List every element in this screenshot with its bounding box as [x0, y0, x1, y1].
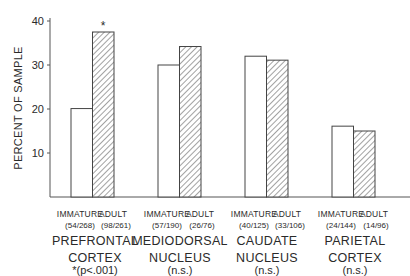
immature-bar — [71, 109, 93, 197]
significance-star: * — [101, 19, 106, 33]
group-name-line1: MEDIODORSAL — [130, 232, 230, 250]
immature-bar — [332, 126, 354, 197]
adult-count: (33/106) — [267, 221, 313, 230]
adult-bar — [354, 131, 376, 197]
adult-label: ADULT — [267, 209, 307, 219]
group-name-line1: PARIETAL — [305, 232, 405, 250]
y-tick-label: 20 — [32, 103, 44, 115]
group-name-line1: CAUDATE — [217, 232, 317, 250]
adult-count: (14/96) — [354, 221, 398, 230]
group-significance: (n.s.) — [305, 264, 405, 276]
y-axis-label: PERCENT OF SAMPLE — [12, 46, 24, 169]
adult-bar — [267, 60, 289, 197]
adult-label: ADULT — [354, 209, 394, 219]
immature-bar — [245, 56, 267, 197]
bars — [71, 32, 375, 197]
adult-label: ADULT — [180, 209, 220, 219]
adult-bar — [180, 47, 202, 197]
adult-bar — [93, 32, 115, 197]
y-tick-label: 10 — [32, 147, 44, 159]
group-significance: (n.s.) — [217, 264, 317, 276]
adult-label: ADULT — [93, 209, 133, 219]
immature-bar — [158, 65, 180, 197]
y-tick-label: 40 — [32, 15, 44, 27]
y-tick-label: 30 — [32, 59, 44, 71]
y-ticks: 10203040 — [32, 15, 50, 159]
adult-count: (26/76) — [180, 221, 224, 230]
group-significance: (n.s.) — [130, 264, 230, 276]
adult-count: (98/261) — [93, 221, 139, 230]
